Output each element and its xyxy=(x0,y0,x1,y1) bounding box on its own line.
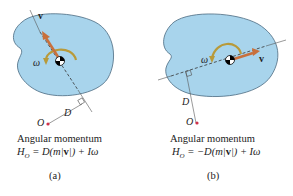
caption-title: Angular momentum xyxy=(170,133,255,144)
point-o-label: O xyxy=(37,117,44,128)
caption-title: Angular momentum xyxy=(17,133,102,144)
velocity-label: v xyxy=(259,53,264,64)
omega-label: ω xyxy=(33,57,40,68)
rigid-body-shape xyxy=(13,14,113,96)
panel-label: (b) xyxy=(207,170,219,181)
omega-label: ω xyxy=(201,54,208,65)
eq-lhs: H xyxy=(17,146,25,157)
eq-middle: = −D(m| xyxy=(185,146,226,157)
point-o-icon xyxy=(46,122,49,125)
panel-b: v ω O D Angular momentum HO = −D(m|v|) +… xyxy=(146,0,293,196)
panel-a: v ω O D Angular momentum HO = D(m|v|) + … xyxy=(0,0,146,196)
panel-label: (a) xyxy=(49,170,61,181)
eq-middle: = D(m| xyxy=(30,146,64,157)
point-o-icon xyxy=(195,121,198,124)
equation: HO = D(m|v|) + Iω xyxy=(17,146,98,160)
distance-d-label: D xyxy=(182,96,189,107)
eq-rest: |) + Iω xyxy=(231,146,261,157)
equation: HO = −D(m|v|) + Iω xyxy=(172,146,261,160)
diagram-b xyxy=(146,0,293,140)
eq-rest: |) + Iω xyxy=(69,146,99,157)
velocity-label: v xyxy=(38,10,43,21)
point-o-label: O xyxy=(186,116,193,127)
eq-lhs: H xyxy=(172,146,180,157)
distance-d-label: D xyxy=(64,107,71,118)
diagram-a xyxy=(0,0,146,140)
